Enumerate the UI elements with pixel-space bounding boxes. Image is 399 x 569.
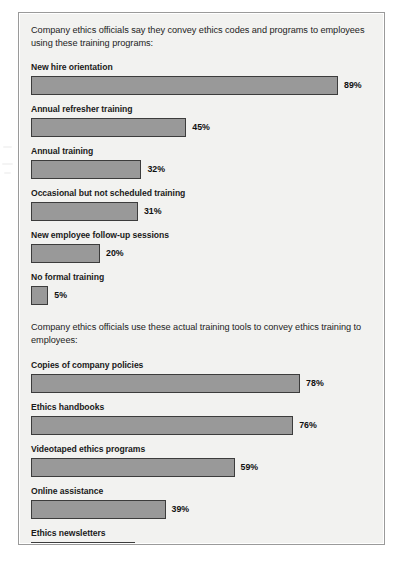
bar-category-label: Online assistance [31,486,375,497]
scan-artifact [2,163,13,165]
bar [31,160,141,179]
bar [31,416,293,435]
bar-group: Annual training32% [31,146,375,179]
bar [31,244,100,263]
bar-group: Copies of company policies78% [31,360,375,393]
bar-value-label: 59% [241,458,259,477]
chart-panel: Company ethics officials say they convey… [18,12,385,545]
bar-value-label: 76% [299,416,317,435]
scan-artifact [3,146,12,148]
bar-group: Online assistance39% [31,486,375,519]
bar-value-label: 45% [192,118,210,137]
bar-row: 78% [31,374,375,393]
bar-row: 89% [31,76,375,95]
bar-group: New employee follow-up sessions20% [31,230,375,263]
bar-group: No formal training5% [31,272,375,305]
bar-row: 45% [31,118,375,137]
chart-content: Company ethics officials say they convey… [31,24,375,543]
bar [31,76,338,95]
bar-category-label: Ethics newsletters [31,528,375,539]
bar-row: 30% [31,542,375,543]
chart-panel-inner: Company ethics officials say they convey… [20,14,383,543]
bar-category-label: New employee follow-up sessions [31,230,375,241]
bar [31,202,138,221]
bar-row: 20% [31,244,375,263]
bar-category-label: Annual training [31,146,375,157]
bar-value-label: 39% [172,500,190,519]
bar-group: Videotaped ethics programs59% [31,444,375,477]
bar-category-label: Annual refresher training [31,104,375,115]
bar-value-label: 78% [306,374,324,393]
scan-artifact [4,172,11,174]
bar-category-label: No formal training [31,272,375,283]
bar-group: New hire orientation89% [31,62,375,95]
bar [31,458,235,477]
bar-row: 39% [31,500,375,519]
bar-category-label: New hire orientation [31,62,375,73]
section-intro-text: Company ethics officials use these actua… [31,321,375,348]
bar-group: Annual refresher training45% [31,104,375,137]
bar-value-label: 31% [144,202,162,221]
bar-group: Ethics newsletters30% [31,528,375,543]
bar-category-label: Copies of company policies [31,360,375,371]
bar-value-label: 30% [141,542,159,543]
bar-group: Occasional but not scheduled training31% [31,188,375,221]
bar-row: 76% [31,416,375,435]
bar-row: 59% [31,458,375,477]
bar-row: 31% [31,202,375,221]
bar-value-label: 20% [106,244,124,263]
bar-category-label: Occasional but not scheduled training [31,188,375,199]
bar [31,118,186,137]
bar [31,542,135,543]
bar-row: 5% [31,286,375,305]
bar-value-label: 89% [344,76,362,95]
bar [31,286,48,305]
bar-category-label: Videotaped ethics programs [31,444,375,455]
bar-category-label: Ethics handbooks [31,402,375,413]
bar-value-label: 32% [147,160,165,179]
scanned-page: Company ethics officials say they convey… [0,0,399,569]
section-intro-text: Company ethics officials say they convey… [31,24,375,51]
bar [31,374,300,393]
bar [31,500,166,519]
bar-group: Ethics handbooks76% [31,402,375,435]
bar-value-label: 5% [54,286,67,305]
bar-row: 32% [31,160,375,179]
